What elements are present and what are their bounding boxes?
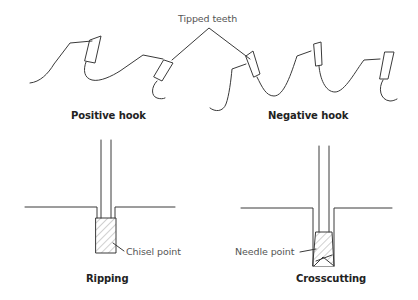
tipped-teeth-leader-lines [172,28,250,60]
positive-hook-caption: Positive hook [71,110,146,121]
negative-hook-caption: Negative hook [268,110,348,121]
ripping-section [25,140,175,253]
saw-tooth-diagram: Tipped teeth Positive hook Negative hook… [0,0,418,300]
diagram-drawing [0,0,418,300]
ripping-caption: Ripping [86,273,128,284]
positive-hook-profile [30,36,173,99]
chisel-point-label: Chisel point [126,246,181,257]
crosscutting-caption: Crosscutting [296,273,366,284]
tipped-teeth-label: Tipped teeth [178,13,237,24]
needle-point-label: Needle point [235,246,294,257]
negative-hook-profile [210,42,397,111]
